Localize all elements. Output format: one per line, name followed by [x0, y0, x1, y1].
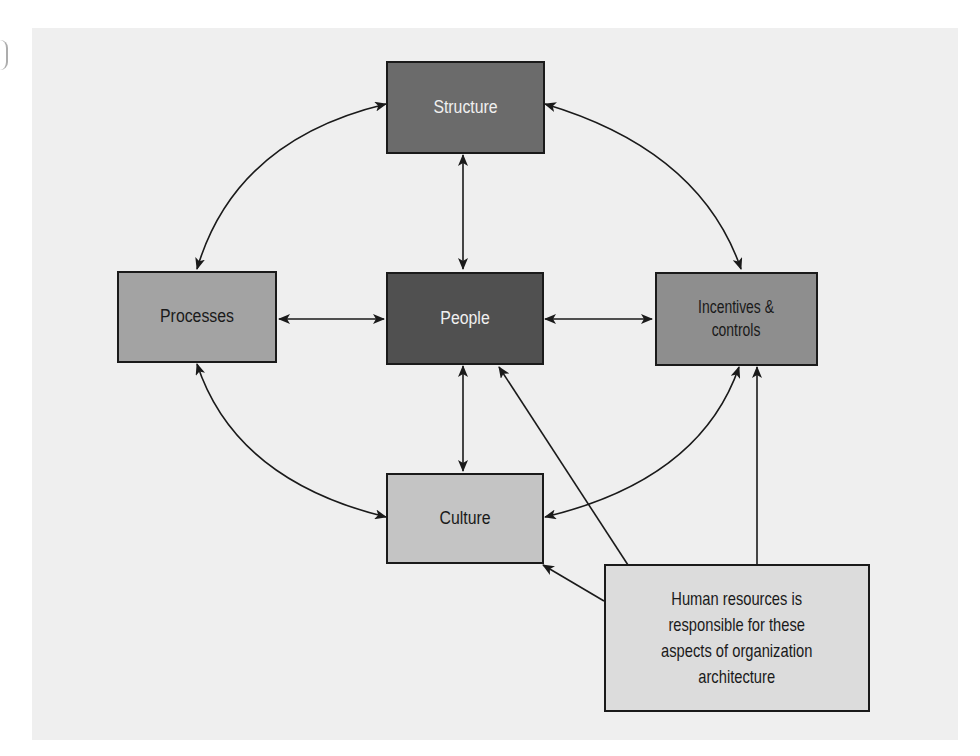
- arrow-processes-culture: [197, 364, 386, 517]
- arrow-hr-culture: [543, 565, 604, 601]
- arrow-structure-incentives: [545, 104, 741, 269]
- arrow-processes-structure: [197, 104, 386, 269]
- node-people-label: People: [440, 307, 489, 330]
- hr-note-line-2: responsible for these: [661, 612, 812, 638]
- node-processes: Processes: [117, 271, 277, 363]
- node-culture-label: Culture: [439, 507, 490, 530]
- node-culture: Culture: [386, 473, 544, 564]
- node-processes-label: Processes: [160, 305, 234, 328]
- node-incentives-line2: controls: [699, 319, 775, 342]
- node-incentives-line1: Incentives &: [699, 296, 775, 319]
- arrow-incentives-culture: [545, 367, 739, 517]
- node-structure: Structure: [386, 61, 545, 154]
- hr-note-line-1: Human resources is: [661, 586, 812, 612]
- hr-note-box: Human resources is responsible for these…: [604, 564, 870, 712]
- hr-note-line-3: aspects of organization: [661, 638, 812, 664]
- node-people: People: [386, 272, 544, 365]
- hr-note-line-4: architecture: [661, 664, 812, 690]
- node-structure-label: Structure: [433, 96, 497, 119]
- node-incentives-controls: Incentives & controls: [655, 272, 818, 366]
